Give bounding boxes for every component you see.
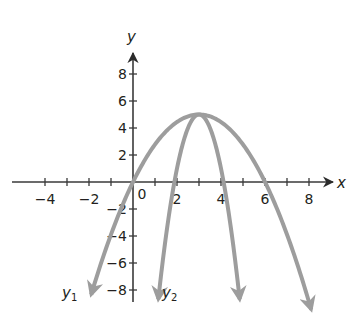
y-tick-label: 2 <box>118 147 127 163</box>
series-label-subscript: 2 <box>171 292 177 303</box>
x-tick-label: −2 <box>79 191 100 207</box>
y-axis-label: y <box>126 28 137 46</box>
x-axis-label: x <box>336 174 346 192</box>
series-label-subscript: 1 <box>71 292 77 303</box>
x-tick-label: 8 <box>305 191 314 207</box>
y-tick-label: 8 <box>118 66 127 82</box>
x-tick-label: −4 <box>35 191 56 207</box>
x-tick-label: 0 <box>138 186 147 202</box>
parabola-chart: −4−202468 8642−2−4−6−8 x y y1y2 <box>0 0 364 322</box>
series-label-y2: y2 <box>161 284 177 303</box>
y-tick-label: −6 <box>106 255 127 271</box>
y-tick-label: −8 <box>106 282 127 298</box>
y-tick-label: 6 <box>118 93 127 109</box>
y-tick-label: 4 <box>118 120 127 136</box>
series-label-y1: y1 <box>61 284 77 303</box>
